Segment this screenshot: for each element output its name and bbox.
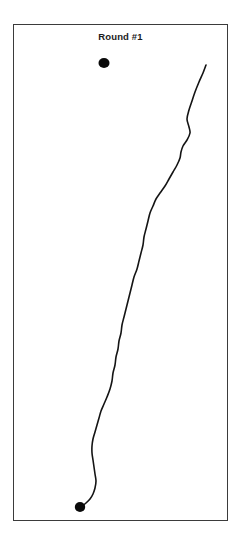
plot-frame-border	[13, 24, 228, 521]
figure-root: Round #1	[0, 0, 241, 545]
chart-title: Round #1	[0, 31, 241, 43]
